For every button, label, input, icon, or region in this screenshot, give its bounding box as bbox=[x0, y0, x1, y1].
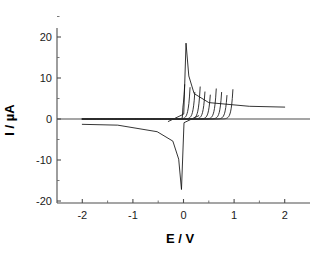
x-tick-label: 0 bbox=[180, 209, 186, 221]
cv-trace bbox=[82, 92, 195, 119]
x-tick-label: 1 bbox=[231, 209, 237, 221]
y-tick-label: -20 bbox=[36, 195, 52, 207]
x-tick-label: 2 bbox=[282, 209, 288, 221]
cv-trace-inner-anodic bbox=[168, 43, 284, 121]
x-axis-title: E / V bbox=[166, 231, 195, 246]
cv-trace bbox=[82, 92, 221, 119]
x-tick-label: -1 bbox=[128, 209, 138, 221]
x-tick-label: -2 bbox=[77, 209, 87, 221]
cv-trace bbox=[82, 96, 227, 119]
cv-trace bbox=[82, 88, 190, 119]
cv-traces-group bbox=[82, 43, 284, 189]
cv-trace bbox=[82, 89, 216, 119]
y-tick-label: 10 bbox=[40, 72, 52, 84]
cv-trace bbox=[82, 85, 184, 119]
cv-trace bbox=[82, 90, 233, 119]
y-tick-label: 0 bbox=[46, 113, 52, 125]
y-axis-title: I / µA bbox=[2, 104, 17, 136]
y-tick-label: -10 bbox=[36, 154, 52, 166]
cv-plot-svg: -20-1001020-2-1012 E / V I / µA bbox=[0, 0, 324, 253]
cv-figure: -20-1001020-2-1012 E / V I / µA bbox=[0, 0, 324, 253]
tick-labels-group: -20-1001020-2-1012 bbox=[36, 31, 288, 221]
y-tick-label: 20 bbox=[40, 31, 52, 43]
cv-trace-inner-cathodic bbox=[82, 116, 198, 190]
